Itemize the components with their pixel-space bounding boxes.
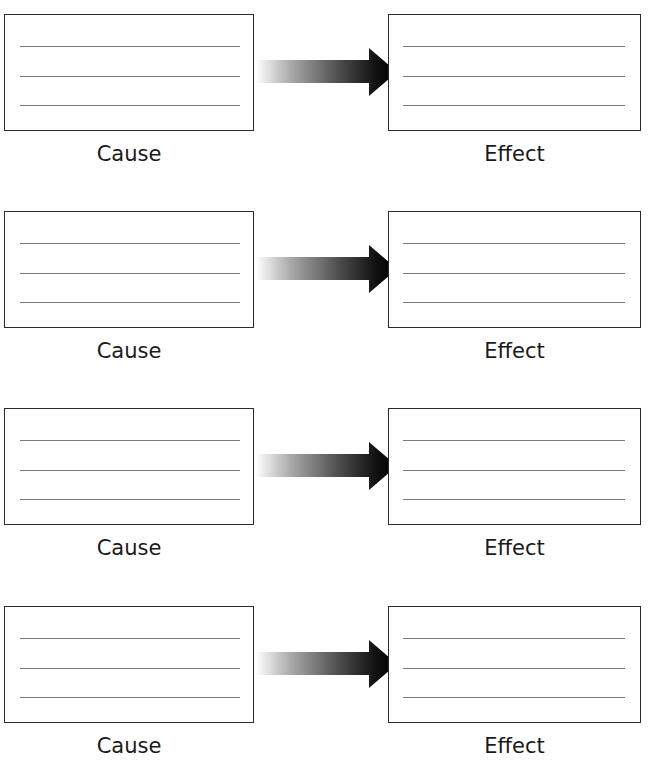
cause-box[interactable] xyxy=(4,211,254,328)
writing-line xyxy=(403,46,625,47)
cause-label: Cause xyxy=(4,536,254,560)
writing-line xyxy=(20,243,240,244)
arrow-right-icon xyxy=(256,48,397,96)
effect-label: Effect xyxy=(388,734,641,758)
effect-box[interactable] xyxy=(388,211,641,328)
writing-line xyxy=(20,440,240,441)
writing-line xyxy=(20,638,240,639)
writing-line xyxy=(20,697,240,698)
writing-line xyxy=(20,668,240,669)
writing-line xyxy=(20,76,240,77)
writing-line xyxy=(403,243,625,244)
effect-box[interactable] xyxy=(388,606,641,723)
writing-line xyxy=(403,470,625,471)
writing-line xyxy=(403,302,625,303)
writing-line xyxy=(403,638,625,639)
arrow-right-icon xyxy=(256,245,397,293)
writing-line xyxy=(20,273,240,274)
writing-line xyxy=(20,46,240,47)
writing-line xyxy=(403,499,625,500)
writing-line xyxy=(20,470,240,471)
arrow-right-icon xyxy=(256,640,397,688)
cause-label: Cause xyxy=(4,734,254,758)
arrow-right-icon xyxy=(256,442,397,490)
writing-line xyxy=(20,105,240,106)
effect-label: Effect xyxy=(388,536,641,560)
writing-line xyxy=(403,273,625,274)
writing-line xyxy=(403,440,625,441)
effect-label: Effect xyxy=(388,339,641,363)
writing-line xyxy=(403,76,625,77)
cause-effect-row-2: Cause Effect xyxy=(0,211,654,408)
writing-line xyxy=(403,105,625,106)
cause-box[interactable] xyxy=(4,606,254,723)
cause-box[interactable] xyxy=(4,408,254,525)
effect-label: Effect xyxy=(388,142,641,166)
writing-line xyxy=(403,668,625,669)
cause-box[interactable] xyxy=(4,14,254,131)
cause-label: Cause xyxy=(4,142,254,166)
effect-box[interactable] xyxy=(388,408,641,525)
cause-effect-row-1: Cause Effect xyxy=(0,14,654,211)
writing-line xyxy=(403,697,625,698)
effect-box[interactable] xyxy=(388,14,641,131)
cause-label: Cause xyxy=(4,339,254,363)
cause-effect-row-4: Cause Effect xyxy=(0,606,654,762)
writing-line xyxy=(20,302,240,303)
writing-line xyxy=(20,499,240,500)
cause-effect-row-3: Cause Effect xyxy=(0,408,654,605)
